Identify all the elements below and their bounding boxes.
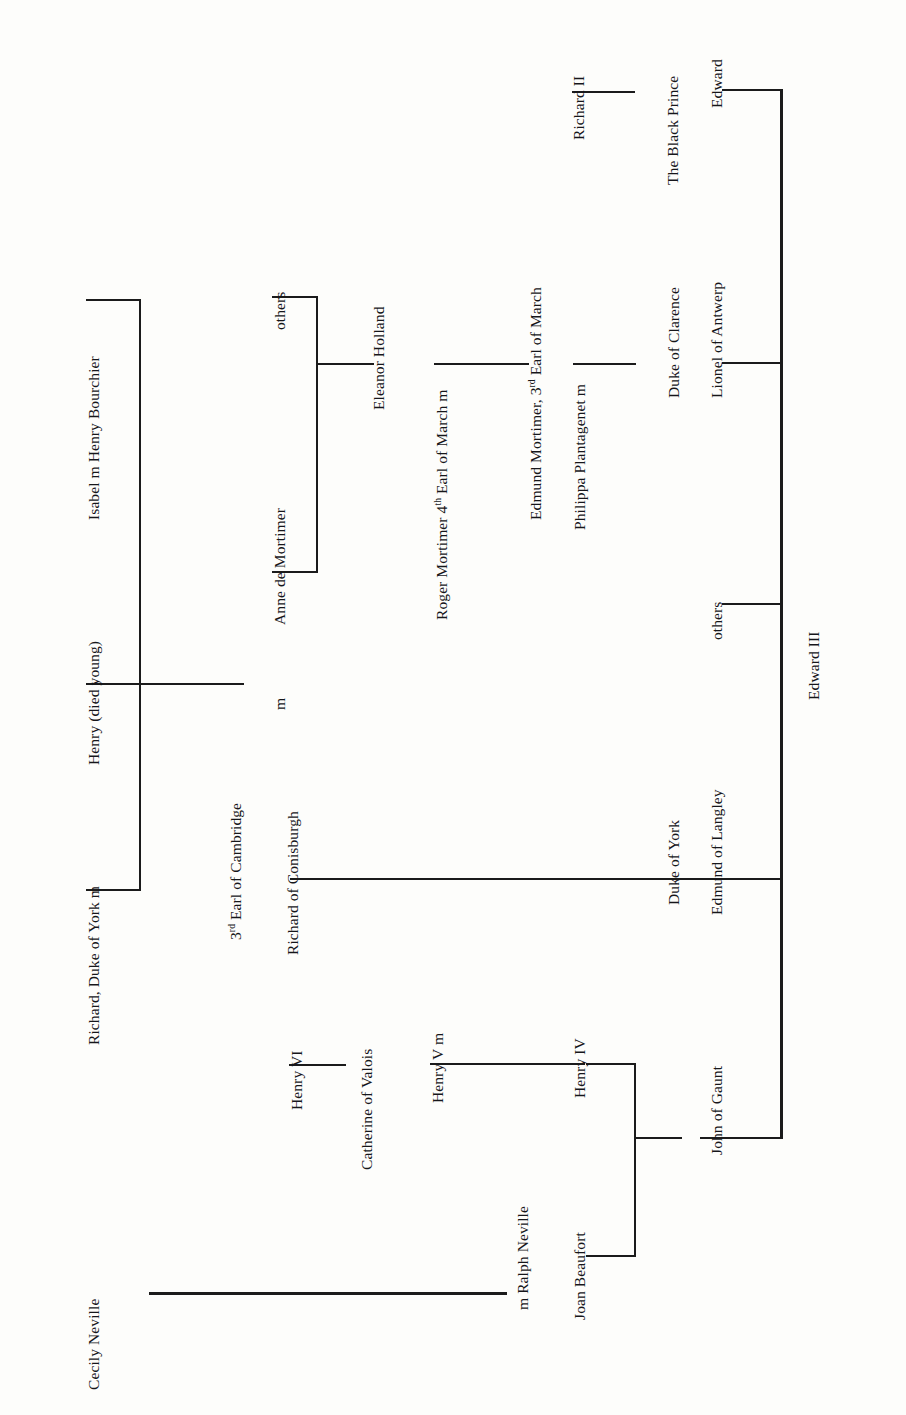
connector-gaunt-children-stem	[634, 1137, 682, 1139]
node-joan-beaufort: Joan Beaufort	[572, 1232, 588, 1320]
node-m-ralph-neville: m Ralph Neville	[515, 1206, 531, 1310]
connector-to-isabel-bourchier	[86, 299, 141, 301]
cambridge-ordinal-text: 3	[227, 932, 244, 940]
node-catherine-of-valois: Catherine of Valois	[359, 1049, 375, 1170]
connector-edward-iii-to-edmund-langley	[722, 878, 782, 880]
connector-edward-iii-to-others	[722, 603, 782, 605]
node-others-mortimer: others	[272, 292, 288, 330]
roger-mortimer-text-pre: Roger Mortimer 4	[433, 506, 450, 620]
edmund-mortimer-text-pre: Edmund Mortimer, 3	[527, 388, 544, 520]
node-edward: Edward	[709, 59, 725, 108]
node-henry-vi: Henry VI	[289, 1051, 305, 1111]
node-duke-of-clarence: Duke of Clarence	[666, 287, 682, 398]
node-richard-of-conisburgh: Richard of Conisburgh	[285, 811, 301, 955]
node-henry-died-young: Henry (died young)	[86, 641, 102, 765]
edmund-mortimer-ordinal-sup: rd	[526, 379, 537, 387]
node-isabel-m-henry-bourchier: Isabel m Henry Bourchier	[86, 356, 102, 520]
connector-edward-iii-to-lionel	[722, 362, 782, 364]
node-richard-ii: Richard II	[571, 76, 587, 140]
connector-anne-marriage-line	[86, 683, 244, 685]
node-eleanor-holland: Eleanor Holland	[371, 306, 387, 410]
cambridge-text-post: Earl of Cambridge	[227, 803, 244, 924]
bracket-roger-children-vertical	[316, 296, 318, 572]
node-edmund-mortimer-3rd-earl: Edmund Mortimer, 3rd Earl of March	[528, 287, 544, 520]
node-3rd-earl-of-cambridge: 3rd Earl of Cambridge	[228, 803, 244, 940]
node-edmund-of-langley: Edmund of Langley	[709, 789, 725, 915]
connector-lionel-to-philippa	[573, 363, 636, 365]
connector-edward-iii-to-edward	[722, 89, 782, 91]
node-edward-iii: Edward III	[806, 631, 822, 700]
roger-mortimer-text-post: Earl of March m	[433, 390, 450, 498]
node-philippa-plantagenet: Philippa Plantagenet m	[572, 384, 588, 530]
spine-edward-iii	[780, 89, 783, 1139]
node-henry-iv: Henry IV	[572, 1038, 588, 1098]
connector-to-joan-beaufort	[586, 1255, 636, 1257]
roger-mortimer-ordinal-sup: th	[432, 498, 443, 506]
node-the-black-prince: The Black Prince	[665, 76, 681, 185]
node-anne-de-mortimer: Anne de Mortimer	[272, 508, 288, 625]
bracket-gaunt-children-vertical	[634, 1063, 636, 1257]
node-duke-of-york: Duke of York	[666, 820, 682, 905]
bracket-anne-children-vertical	[139, 299, 141, 891]
cambridge-ordinal-sup: rd	[226, 924, 237, 932]
connector-joan-neville-to-cecily	[149, 1292, 507, 1295]
node-richard-duke-of-york: Richard, Duke of York m	[86, 886, 102, 1045]
node-john-of-gaunt: John of Gaunt	[709, 1066, 725, 1155]
family-tree-diagram: Edward III Edward The Black Prince Richa…	[0, 0, 906, 1415]
node-marriage-m-anne-richard: m	[272, 698, 288, 710]
node-lionel-of-antwerp: Lionel of Antwerp	[709, 282, 725, 398]
edmund-mortimer-text-post: Earl of March	[527, 287, 544, 379]
connector-roger-children-stem	[316, 363, 374, 365]
node-roger-mortimer-4th-earl: Roger Mortimer 4th Earl of March m	[434, 390, 450, 620]
node-henry-v: Henry V m	[430, 1033, 446, 1103]
node-others-edward-iii: others	[709, 602, 725, 640]
connector-to-henry-iv	[586, 1063, 636, 1065]
connector-edmund-mortimer-to-roger	[434, 363, 529, 365]
node-cecily-neville: Cecily Neville	[86, 1299, 102, 1390]
connector-henry-iv-to-henry-v	[430, 1063, 585, 1065]
